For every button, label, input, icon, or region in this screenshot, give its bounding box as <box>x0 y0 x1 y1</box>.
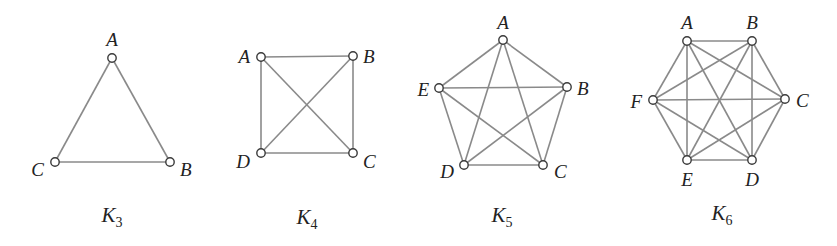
edge-a-d <box>464 40 503 165</box>
vertex-label: D <box>439 161 454 182</box>
vertex-b <box>349 52 357 60</box>
edge-a-b <box>503 40 567 87</box>
vertex-f <box>649 96 657 104</box>
graph-k3: ABCK3 <box>31 29 192 230</box>
edge-d-e <box>439 88 464 165</box>
edge-b-d <box>464 87 567 165</box>
vertex-label: C <box>796 90 809 111</box>
graph-k4: ABCDK4 <box>235 46 376 232</box>
caption-subscript: 6 <box>726 213 733 228</box>
vertex-label: B <box>746 12 758 33</box>
complete-graphs-figure: ABCK3ABCDK4ABCDEK5ABCDEFK6 <box>0 0 837 246</box>
edge-b-c <box>752 41 785 99</box>
vertex-label: F <box>629 91 642 112</box>
vertex-label: E <box>416 79 429 100</box>
caption-subscript: 4 <box>311 217 318 232</box>
graph-caption: K5 <box>490 203 512 230</box>
vertex-label: B <box>577 78 589 99</box>
vertex-a <box>108 54 116 62</box>
vertex-label: D <box>744 169 759 190</box>
vertex-label: A <box>679 12 693 33</box>
caption-subscript: 3 <box>116 215 123 230</box>
graph-k5: ABCDEK5 <box>416 12 589 230</box>
graph-caption: K4 <box>295 205 317 232</box>
vertex-c <box>539 161 547 169</box>
vertex-a <box>683 37 691 45</box>
vertex-label: B <box>363 46 375 67</box>
edge-b-e <box>439 87 567 88</box>
vertex-c <box>349 149 357 157</box>
vertex-b <box>748 37 756 45</box>
edge-c-d <box>752 99 785 160</box>
vertex-e <box>435 84 443 92</box>
edge-c-e <box>439 88 543 165</box>
vertex-b <box>563 83 571 91</box>
edge-a-e <box>439 40 503 88</box>
vertex-c <box>781 95 789 103</box>
vertex-label: A <box>495 12 509 33</box>
edge-e-f <box>653 100 687 160</box>
vertex-label: B <box>180 159 192 180</box>
graph-caption: K3 <box>100 203 122 230</box>
caption-subscript: 5 <box>506 215 513 230</box>
vertex-d <box>748 156 756 164</box>
vertex-label: C <box>363 151 376 172</box>
vertex-a <box>499 36 507 44</box>
edge-a-b <box>261 56 353 57</box>
graph-k6: ABCDEFK6 <box>629 12 809 228</box>
vertex-label: A <box>236 46 250 67</box>
vertex-d <box>460 161 468 169</box>
caption-main: K <box>710 201 726 225</box>
caption-main: K <box>490 203 506 227</box>
vertex-label: E <box>680 169 693 190</box>
edge-c-f <box>653 99 785 100</box>
vertex-label: C <box>31 159 44 180</box>
vertex-label: A <box>104 29 118 50</box>
vertex-label: C <box>554 161 567 182</box>
vertex-b <box>166 158 174 166</box>
edge-a-c <box>503 40 543 165</box>
vertex-a <box>257 53 265 61</box>
graph-caption: K6 <box>710 201 732 228</box>
edge-a-b <box>112 58 170 162</box>
vertex-e <box>683 156 691 164</box>
vertex-d <box>257 149 265 157</box>
edge-a-c <box>55 58 112 162</box>
caption-main: K <box>295 205 311 229</box>
caption-main: K <box>100 203 116 227</box>
edge-a-f <box>653 41 687 100</box>
vertex-c <box>51 158 59 166</box>
edge-b-c <box>543 87 567 165</box>
vertex-label: D <box>235 151 250 172</box>
